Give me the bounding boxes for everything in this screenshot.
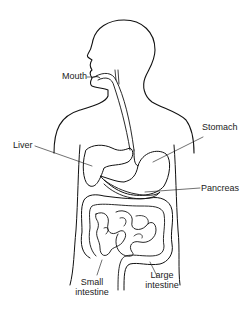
body-silhouette [54, 20, 194, 153]
liver-leader-line [35, 146, 92, 166]
label-large-intestine: Large intestine [142, 270, 182, 290]
label-small-intestine: Small intestine [72, 277, 112, 297]
label-pancreas: Pancreas [201, 183, 239, 193]
small-intestine-coils-3 [104, 215, 148, 238]
torso-left [70, 145, 80, 285]
stomach-leader-line [153, 137, 203, 162]
label-small-intestine-line2: intestine [72, 287, 112, 297]
body-outline-illustration [0, 0, 247, 310]
stomach-organ [100, 150, 170, 195]
small-intestine-organ [96, 213, 126, 256]
label-large-intestine-line1: Large [142, 270, 182, 280]
label-liver: Liver [13, 140, 33, 150]
pancreas-organ [104, 180, 160, 199]
small-intestine-leader-line [97, 260, 102, 275]
digestive-system-diagram: Mouth Liver Stomach Pancreas Small intes… [0, 0, 247, 310]
torso-right [174, 145, 180, 285]
pancreas-leader-line [145, 188, 200, 192]
label-large-intestine-line2: intestine [142, 280, 182, 290]
label-stomach: Stomach [202, 122, 238, 132]
label-mouth: Mouth [62, 71, 87, 81]
label-small-intestine-line1: Small [72, 277, 112, 287]
